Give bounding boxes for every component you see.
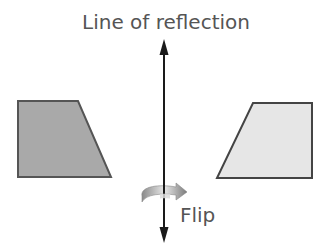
flip-label: Flip [180, 203, 215, 227]
line-of-reflection-label: Line of reflection [82, 10, 250, 34]
arrowhead-down-icon [160, 227, 169, 243]
reflection-diagram: Line of reflection Flip [0, 0, 336, 252]
reflected-trapezoid [217, 103, 312, 178]
original-trapezoid [18, 101, 111, 177]
arrowhead-up-icon [160, 39, 169, 55]
flip-arrow-front-band [160, 194, 170, 199]
